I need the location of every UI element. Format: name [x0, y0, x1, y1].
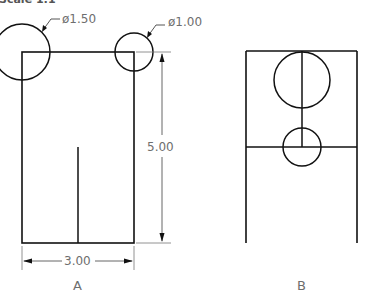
view-a-label: A [73, 278, 82, 293]
view-a: ø1.50 ø1.00 5.00 3.00 A [0, 12, 202, 293]
dim-large-diameter: ø1.50 [62, 12, 96, 26]
technical-drawing: Scale 1:1 ø1.50 ø1.00 5.00 3.00 [0, 0, 374, 300]
dim-height: 5.00 [147, 140, 174, 154]
view-b: B [246, 51, 357, 293]
dim-small-diameter: ø1.00 [168, 15, 202, 29]
arrow-height-bottom [160, 233, 165, 242]
dim-width: 3.00 [64, 254, 91, 268]
arrow-height-top [160, 53, 165, 62]
arrow-width-left [23, 259, 32, 264]
view-b-label: B [297, 278, 306, 293]
header-text: Scale 1:1 [0, 0, 56, 6]
arrow-width-right [124, 259, 133, 264]
